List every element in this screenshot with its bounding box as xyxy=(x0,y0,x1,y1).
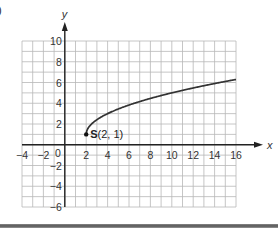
x-tick-label: 8 xyxy=(147,149,153,161)
x-tick-label: −2 xyxy=(37,149,49,161)
y-tick-label: −4 xyxy=(50,180,62,192)
y-tick-label: 4 xyxy=(56,97,62,109)
partial-label: ) xyxy=(0,4,2,16)
x-tick-label: −4 xyxy=(16,149,28,161)
x-tick-label: 6 xyxy=(126,149,132,161)
y-tick-label: 10 xyxy=(50,35,62,47)
x-axis-label: x xyxy=(266,139,273,151)
y-axis-label: y xyxy=(61,8,69,20)
x-tick-label: 2 xyxy=(83,149,89,161)
y-tick-label: 6 xyxy=(56,77,62,89)
x-tick-label: 10 xyxy=(166,149,178,161)
x-tick-label: 4 xyxy=(105,149,111,161)
y-tick-label: 2 xyxy=(56,118,62,130)
x-tick-label: 16 xyxy=(230,149,242,161)
y-axis-arrow-icon xyxy=(62,22,68,31)
origin-label: 0 xyxy=(55,147,61,159)
bottom-divider xyxy=(0,224,278,228)
coordinate-plane: )xy−4−2246810121416−6−4−22468100S(2, 1) xyxy=(0,0,278,229)
y-tick-label: −6 xyxy=(50,201,62,213)
y-tick-label: 8 xyxy=(56,56,62,68)
point-s-marker xyxy=(84,132,88,136)
point-s-label: S(2, 1) xyxy=(90,128,123,140)
x-tick-label: 14 xyxy=(209,149,221,161)
x-axis-arrow-icon xyxy=(254,142,263,148)
x-tick-label: 12 xyxy=(187,149,199,161)
y-tick-label: −2 xyxy=(50,160,62,172)
